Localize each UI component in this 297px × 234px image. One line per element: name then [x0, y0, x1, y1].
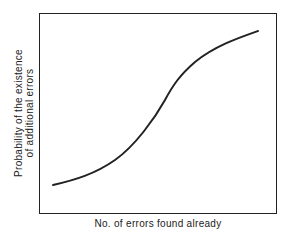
y-axis-label-line-1: Probability of the existence: [13, 18, 24, 208]
x-axis-label: No. of errors found already: [39, 218, 277, 229]
probability-curve: [0, 0, 297, 234]
y-axis-label: Probability of the existence of addition…: [13, 18, 35, 208]
y-axis-label-line-2: of additional errors: [24, 18, 35, 208]
